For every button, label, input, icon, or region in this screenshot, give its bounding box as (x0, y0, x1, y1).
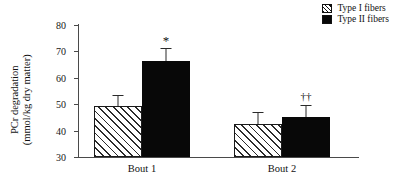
bar-bout-2-series-1 (234, 124, 282, 157)
y-axis-tick: 40 (74, 131, 79, 132)
plot-area: 304050607080Bout 1Bout 2*†† (78, 25, 358, 157)
y-axis-tick-label: 80 (56, 20, 66, 31)
legend-swatch-hatched-icon (322, 4, 332, 13)
y-axis-tick-label: 50 (56, 99, 66, 110)
y-axis-tick-label: 40 (56, 125, 66, 136)
chart-figure: Type I fibers Type II fibers PCr degrada… (0, 0, 393, 184)
x-axis-label-bout-1: Bout 1 (128, 163, 156, 174)
error-bar (166, 48, 167, 62)
y-axis-tick: 70 (74, 51, 79, 52)
y-axis-tick-label: 70 (56, 46, 66, 57)
y-axis-tick: 60 (74, 78, 79, 79)
y-axis-title-line-1: PCr degradation (9, 30, 21, 170)
bar-bout-1-series-1 (94, 106, 142, 157)
legend-label-type-i: Type I fibers (337, 4, 385, 14)
bar-bout-1-series-2 (142, 61, 190, 157)
y-axis-title-line-2: (mmol/kg dry matter) (21, 30, 33, 170)
error-bar-cap (113, 95, 124, 96)
y-axis-tick: 80 (74, 25, 79, 26)
y-axis-tick: 50 (74, 104, 79, 105)
legend-item-type-i: Type I fibers (322, 4, 389, 14)
bar-bout-2-series-2 (282, 117, 330, 157)
y-axis-line (78, 24, 79, 158)
error-bar-cap (253, 112, 264, 113)
chart-legend: Type I fibers Type II fibers (322, 4, 389, 24)
y-axis-tick-label: 30 (56, 152, 66, 163)
y-axis-title: PCr degradation (mmol/kg dry matter) (9, 30, 33, 170)
error-bar (258, 112, 259, 124)
error-bar-cap (301, 105, 312, 106)
legend-swatch-solid-icon (322, 15, 332, 24)
significance-annotation: †† (301, 91, 312, 102)
x-axis-label-bout-2: Bout 2 (268, 163, 296, 174)
x-axis-line (78, 157, 359, 158)
legend-item-type-ii: Type II fibers (322, 15, 389, 25)
y-axis-tick: 30 (74, 157, 79, 158)
legend-label-type-ii: Type II fibers (337, 15, 389, 25)
significance-annotation: * (163, 34, 170, 47)
error-bar (306, 105, 307, 117)
error-bar (118, 95, 119, 106)
y-axis-tick-label: 60 (56, 72, 66, 83)
